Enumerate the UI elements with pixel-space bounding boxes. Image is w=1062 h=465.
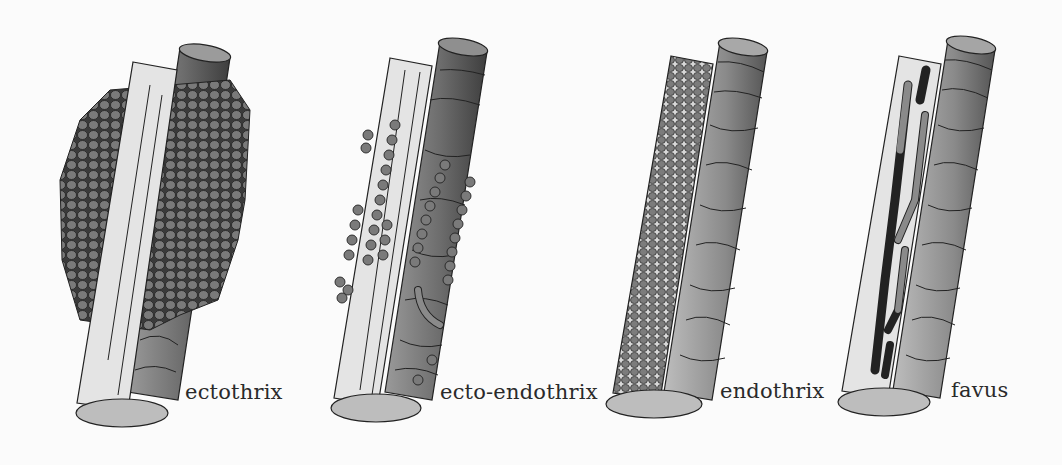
- panel-endothrix: [606, 35, 769, 418]
- panel-ecto-endothrix: [331, 35, 489, 422]
- hair-infection-diagram: ectothrix: [0, 0, 1062, 465]
- label-endothrix: endothrix: [720, 379, 824, 403]
- panel-favus: [838, 33, 997, 416]
- hypha-dark: [920, 70, 926, 100]
- label-ecto-endothrix: ecto-endothrix: [440, 380, 598, 404]
- panel-ectothrix: [60, 41, 250, 427]
- label-favus: favus: [951, 378, 1008, 402]
- label-ectothrix: ectothrix: [185, 380, 283, 404]
